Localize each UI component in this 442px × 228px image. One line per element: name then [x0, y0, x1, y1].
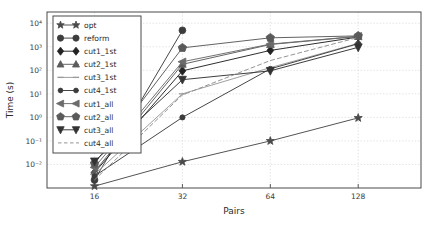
legend-label: cut4_all [84, 139, 113, 148]
legend-label: cut2_all [84, 113, 113, 122]
y-axis-title: Time (s) [5, 82, 15, 120]
data-point-marker [179, 27, 186, 34]
legend-label: cut1_1st [84, 47, 116, 56]
legend-label: reform [84, 34, 109, 43]
legend-label: opt [84, 21, 96, 30]
chart-figure: 10⁴10³10²10¹10⁰10⁻¹10⁻² 163264128 Time (… [0, 0, 442, 228]
y-tick-label: 10¹ [29, 90, 42, 99]
x-axis-title: Pairs [223, 206, 245, 216]
data-point-marker [73, 35, 79, 41]
x-tick-label: 128 [351, 192, 366, 201]
data-point-marker [57, 35, 63, 41]
data-point-marker [180, 115, 185, 120]
legend-label: cut3_all [84, 126, 113, 135]
legend-label: cut2_1st [84, 60, 116, 69]
y-axis-tick-labels: 10⁴10³10²10¹10⁰10⁻¹10⁻² [25, 19, 42, 169]
data-point-marker [178, 43, 186, 51]
x-tick-label: 16 [90, 192, 100, 201]
data-point-marker [354, 114, 362, 122]
data-point-marker [266, 33, 274, 41]
data-point-marker [74, 88, 79, 93]
x-axis-tick-labels: 163264128 [90, 192, 366, 201]
legend-label: cut1_all [84, 100, 113, 109]
y-tick-label: 10³ [29, 43, 42, 52]
y-tick-label: 10⁻² [25, 160, 42, 169]
data-point-marker [58, 88, 63, 93]
y-tick-label: 10⁻¹ [25, 137, 42, 146]
data-point-marker [178, 157, 186, 165]
y-tick-label: 10⁰ [29, 113, 42, 122]
y-tick-label: 10² [29, 66, 42, 75]
line-chart: 10⁴10³10²10¹10⁰10⁻¹10⁻² 163264128 Time (… [0, 0, 442, 228]
y-tick-label: 10⁴ [29, 19, 42, 28]
x-tick-label: 32 [178, 192, 188, 201]
chart-legend: optreformcut1_1stcut2_1stcut3_1stcut4_1s… [53, 16, 141, 153]
x-tick-label: 64 [266, 192, 276, 201]
legend-label: cut3_1st [84, 73, 116, 82]
legend-label: cut4_1st [84, 86, 116, 95]
